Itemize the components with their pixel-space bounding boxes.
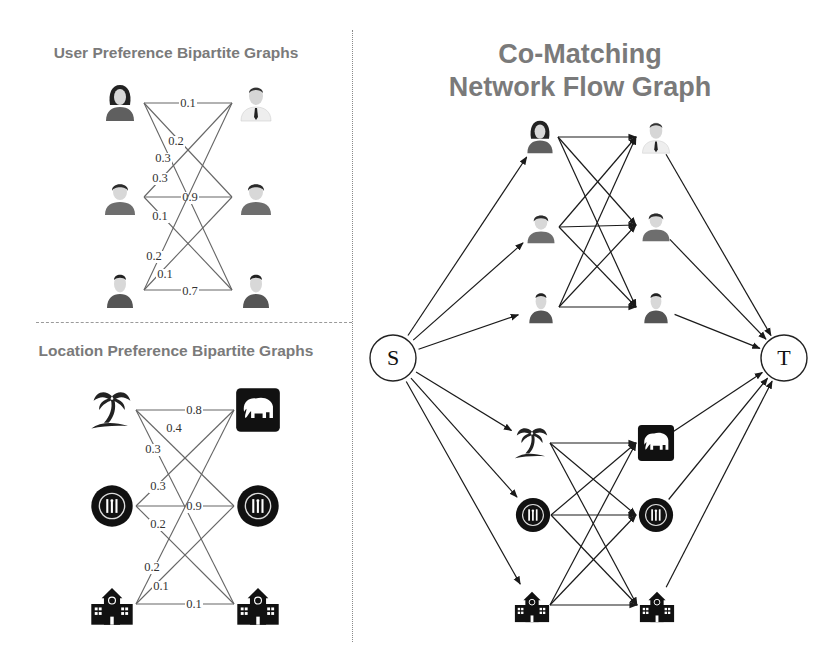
school-icon	[237, 588, 278, 625]
sink-edge	[673, 372, 763, 432]
school-icon	[515, 592, 549, 622]
boy-icon	[528, 215, 555, 243]
user-graph-edge-weight: 0.3	[155, 151, 171, 165]
restaurant-icon	[91, 485, 132, 526]
matching-edge	[550, 515, 636, 605]
woman-icon	[106, 85, 134, 121]
source-edge	[416, 372, 511, 430]
boy-icon	[643, 213, 670, 241]
source-edge	[406, 382, 520, 585]
location-graph-edge-weight: 0.3	[150, 479, 166, 493]
sink-edge	[666, 154, 771, 335]
boy-icon	[105, 184, 135, 215]
location-graph-edge-weight: 0.2	[144, 560, 160, 574]
businessman-icon	[643, 123, 670, 154]
restaurant-icon	[516, 498, 550, 532]
school-icon	[640, 592, 674, 622]
boy-icon	[241, 184, 271, 215]
user-graph-edge-weight: 0.3	[152, 171, 168, 185]
businessman-icon	[241, 87, 271, 121]
man-icon	[243, 275, 269, 308]
matching-edge	[559, 225, 636, 227]
restaurant-icon	[639, 498, 673, 532]
man-icon	[107, 275, 133, 308]
user-graph-edge-weight: 0.1	[152, 209, 168, 223]
source-node-label: S	[387, 345, 399, 370]
sink-edge	[670, 239, 766, 339]
location-graph-edge-weight: 0.1	[186, 597, 202, 611]
man-icon	[529, 293, 552, 323]
palm-tree-icon	[91, 392, 130, 428]
palm-tree-icon	[515, 428, 547, 458]
user-graph-edge-weight: 0.1	[157, 267, 173, 281]
user-graph-edge-weight: 0.1	[180, 96, 196, 110]
matching-edge	[551, 515, 637, 605]
restaurant-icon	[237, 485, 278, 526]
sink-edge	[666, 381, 772, 587]
location-graph-edge-weight: 0.4	[166, 421, 182, 435]
diagram-canvas: 0.10.20.30.30.90.10.20.10.70.80.40.30.30…	[0, 0, 836, 663]
user-graph-edge-weight: 0.2	[168, 134, 184, 148]
elephant-zoo-icon	[236, 388, 280, 432]
source-edge	[411, 378, 517, 497]
user-graph-edge-weight: 0.2	[146, 249, 162, 263]
sink-edge	[669, 378, 768, 499]
school-icon	[91, 588, 132, 625]
elephant-zoo-icon	[638, 425, 674, 461]
source-edge	[413, 243, 523, 340]
location-graph-edge-weight: 0.3	[145, 442, 161, 456]
source-edge	[408, 157, 527, 336]
woman-icon	[527, 121, 552, 153]
user-graph-edge-weight: 0.7	[182, 284, 198, 298]
sink-node-label: T	[777, 345, 791, 370]
location-graph-edge-weight: 0.2	[150, 517, 166, 531]
location-graph-edge-weight: 0.1	[153, 579, 169, 593]
man-icon	[644, 293, 667, 323]
location-graph-edge-weight: 0.8	[186, 403, 202, 417]
source-edge	[419, 315, 519, 349]
